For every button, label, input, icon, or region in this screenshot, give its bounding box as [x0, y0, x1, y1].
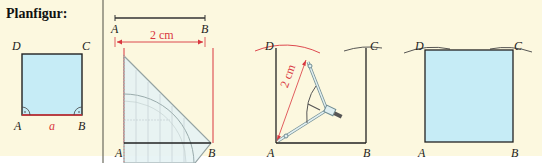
step3-label-d: D [415, 40, 424, 52]
step1-label-a: A [111, 23, 118, 35]
planfigur-label-side-a: a [49, 120, 55, 132]
planfigur-title: Planfigur: [6, 6, 67, 22]
planfigur-label-a: A [14, 120, 21, 132]
step2-label-c: C [370, 40, 378, 52]
step2-label-b: B [363, 147, 370, 159]
planfigur-square [22, 54, 82, 115]
step1-bottom-b: B [208, 147, 215, 159]
step3-label-b: B [511, 147, 518, 159]
planfigur-label-b: B [78, 120, 85, 132]
step2-label-d: D [265, 40, 274, 52]
planfigur-label-d: D [12, 40, 21, 52]
construction-figure: Planfigur: D C A a B A B 2 cm A B D C A … [0, 0, 542, 163]
step3-label-c: C [514, 40, 522, 52]
step1-bottom-a: A [115, 147, 122, 159]
step2-label-a: A [267, 147, 274, 159]
set-square-icon [124, 56, 211, 163]
planfigur-label-c: C [82, 40, 90, 52]
step1-measure: 2 cm [150, 29, 174, 41]
final-square [425, 50, 513, 142]
step1-label-b: B [201, 23, 208, 35]
step3-label-a: A [418, 147, 425, 159]
construction-drawing [0, 0, 542, 163]
